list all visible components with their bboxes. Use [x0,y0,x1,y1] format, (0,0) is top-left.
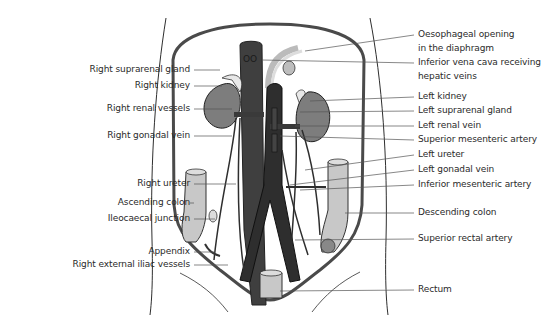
label-right: Oesophageal openingin the diaphragm [418,29,514,54]
label-left: Right external iliac vessels [73,259,190,270]
body-outline-left [150,18,166,315]
label-right-line: hepatic veins [418,71,541,82]
label-right: Superior mesenteric artery [418,134,537,145]
label-right-line: Left suprarenal gland [418,105,512,116]
label-right-line: Left kidney [418,91,467,102]
label-right-line: Superior mesenteric artery [418,134,537,145]
label-right: Left gonadal vein [418,164,494,175]
label-left: Right gonadal vein [107,130,190,141]
label-right-line: Inferior vena cava receiving [418,57,541,68]
label-right-line: in the diaphragm [418,43,514,54]
label-right-line: Superior rectal artery [418,233,512,244]
label-right: Inferior mesenteric artery [418,179,531,190]
label-right: Descending colon [418,207,496,218]
label-right-line: Left gonadal vein [418,164,494,175]
groin-line-left [180,273,228,312]
label-right: Superior rectal artery [418,233,512,244]
label-right: Rectum [418,284,452,295]
label-right: Left kidney [418,91,467,102]
label-right-line: Inferior mesenteric artery [418,179,531,190]
svg-text:OO: OO [243,54,257,64]
groin-line-right [312,272,360,312]
label-left: Right ureter [137,178,190,189]
label-right-line: Left ureter [418,149,464,160]
label-right: Left ureter [418,149,464,160]
rectum [260,270,282,298]
label-right-line: Descending colon [418,207,496,218]
label-right-line: Oesophageal opening [418,29,514,40]
label-left: Ascending colon [118,197,190,208]
label-right: Left renal vein [418,120,481,131]
label-left: Appendix [148,246,190,257]
label-right-line: Rectum [418,284,452,295]
label-right: Inferior vena cava receivinghepatic vein… [418,57,541,82]
label-left: Ileocaecal junction [108,213,190,224]
label-left: Right renal vessels [107,103,190,114]
label-right: Left suprarenal gland [418,105,512,116]
label-left: Right kidney [135,80,190,91]
label-left: Right suprarenal gland [90,64,190,75]
label-right-line: Left renal vein [418,120,481,131]
